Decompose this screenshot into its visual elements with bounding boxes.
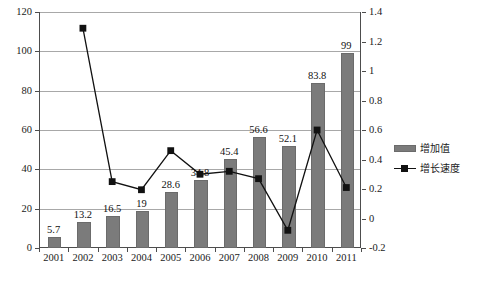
bar-value-label: 99 [326,40,366,51]
y-axis-right-label: 1.4 [369,7,382,18]
x-axis-label: 2011 [328,252,364,263]
y-axis-right-label: 1 [369,66,374,77]
y-axis-right-label: 0.2 [369,184,382,195]
bar [106,216,119,248]
y-axis-left-label: 120 [16,7,32,18]
bar-value-label: 5.7 [34,224,74,235]
bar [48,237,61,248]
y-axis-left-tick [35,51,39,52]
x-axis-tick [185,248,186,252]
bar [77,222,90,248]
bar-value-label: 45.4 [209,146,249,157]
bar-swatch-icon [394,145,416,152]
x-axis-tick [127,248,128,252]
bar [136,211,149,248]
y-axis-left-label: 100 [16,46,32,57]
y-axis-left-tick [35,169,39,170]
bar-value-label: 83.8 [297,70,337,81]
y-axis-left: 020406080100120 [0,0,32,285]
x-axis-tick [68,248,69,252]
y-axis-left-label: 20 [22,204,33,215]
x-axis-tick [302,248,303,252]
y-axis-right-label: 0.6 [369,125,382,136]
y-axis-right-tick [362,189,366,190]
bar-value-label: 34.8 [180,167,220,178]
y-axis-left-tick [35,91,39,92]
y-axis-right-tick [362,71,366,72]
x-axis-tick [273,248,274,252]
bar [165,192,178,248]
chart-legend: 增加值 增长速度 [394,140,476,180]
y-axis-left-label: 80 [22,86,33,97]
x-axis-tick [156,248,157,252]
legend-label-growth-rate: 增长速度 [420,163,460,174]
y-axis-left-tick [35,12,39,13]
bar [224,159,237,248]
y-axis-right-tick [362,101,366,102]
line-square-swatch-icon [394,164,416,173]
y-axis-left-label: 40 [22,164,33,175]
y-axis-right-tick [362,12,366,13]
y-axis-right-label: 0.8 [369,96,382,107]
x-axis-tick [215,248,216,252]
bar [341,53,354,248]
bar [253,137,266,248]
legend-item-value-added: 增加值 [394,140,476,156]
y-axis-right-label: 0 [369,214,374,225]
chart-figure: 020406080100120 -0.200.20.40.60.811.21.4… [0,0,477,285]
x-axis-tick [332,248,333,252]
y-axis-left-tick [35,248,39,249]
y-axis-right-label: 1.2 [369,37,382,48]
y-axis-left-tick [35,209,39,210]
x-axis-tick [244,248,245,252]
y-axis-right-tick [362,130,366,131]
x-axis-tick [98,248,99,252]
y-axis-left-tick [35,130,39,131]
x-axis-tick [39,248,40,252]
legend-label-value-added: 增加值 [420,143,450,154]
bar-value-label: 28.6 [151,179,191,190]
bar [282,146,295,248]
gridline [40,51,360,52]
y-axis-left-label: 60 [22,125,33,136]
y-axis-right-label: 0.4 [369,155,382,166]
y-axis-right-tick [362,219,366,220]
y-axis-right-label: -0.2 [369,243,386,254]
y-axis-right-tick [362,160,366,161]
y-axis-right-tick [362,248,366,249]
bar [194,180,207,248]
y-axis-left-label: 0 [27,243,32,254]
bar-value-label: 52.1 [268,133,308,144]
legend-item-growth-rate: 增长速度 [394,160,476,176]
gridline [40,12,360,13]
bar [311,83,324,248]
bar-value-label: 19 [121,198,161,209]
